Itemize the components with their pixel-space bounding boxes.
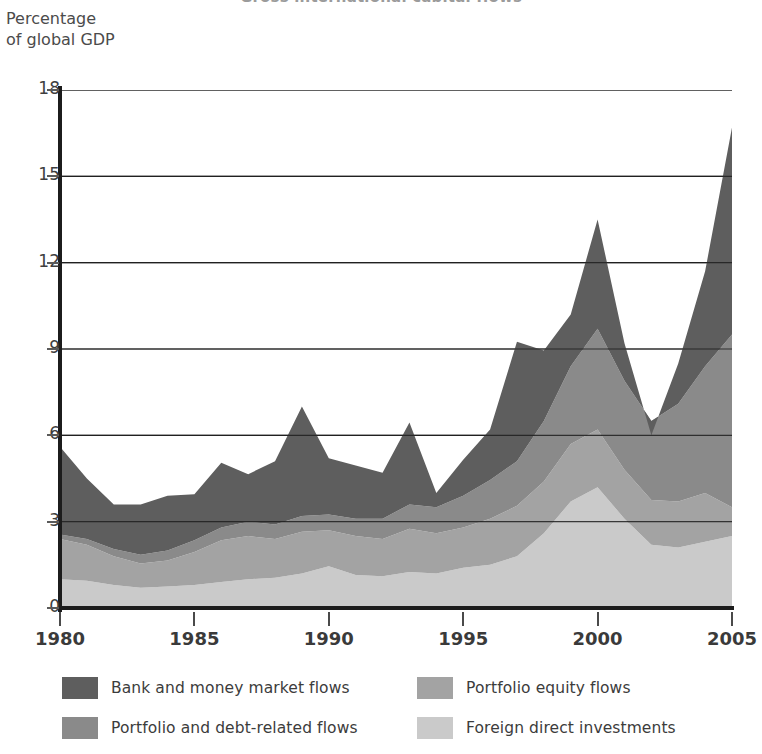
x-tick-label: 2000 [558, 628, 638, 649]
legend-item[interactable]: Foreign direct investments [417, 717, 752, 739]
legend-label: Portfolio equity flows [466, 679, 631, 697]
legend-swatch-icon [62, 717, 98, 739]
x-tick-mark [328, 612, 330, 626]
x-tick-label: 1980 [20, 628, 100, 649]
legend-swatch-icon [62, 677, 98, 699]
legend-item[interactable]: Portfolio and debt-related flows [62, 717, 417, 739]
x-axis-ticks: 198019851990199520002005 [0, 0, 762, 754]
legend-swatch-icon [417, 677, 453, 699]
x-tick-label: 2005 [692, 628, 762, 649]
x-tick-label: 1990 [289, 628, 369, 649]
legend-item[interactable]: Portfolio equity flows [417, 677, 752, 699]
x-tick-mark [59, 612, 61, 626]
legend-label: Bank and money market flows [111, 679, 350, 697]
chart-figure: Gross international capital flows Percen… [0, 0, 762, 754]
legend-item[interactable]: Bank and money market flows [62, 677, 417, 699]
legend-label: Portfolio and debt-related flows [111, 719, 358, 737]
x-tick-mark [731, 612, 733, 626]
legend-label: Foreign direct investments [466, 719, 676, 737]
x-tick-mark [597, 612, 599, 626]
legend-swatch-icon [417, 717, 453, 739]
x-tick-label: 1985 [154, 628, 234, 649]
x-tick-mark [193, 612, 195, 626]
chart-legend: Bank and money market flowsPortfolio equ… [62, 668, 752, 748]
x-tick-mark [462, 612, 464, 626]
x-tick-label: 1995 [423, 628, 503, 649]
